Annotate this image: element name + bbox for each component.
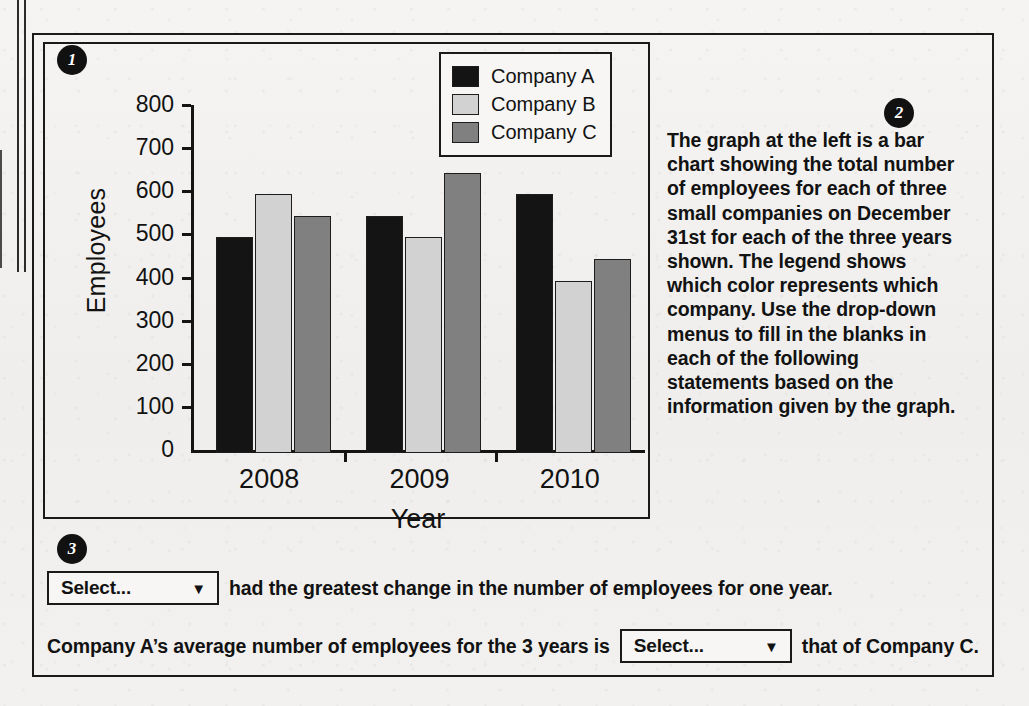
y-tick-label: 400 <box>114 266 174 289</box>
statement-two-text-before: Company A’s average number of employees … <box>47 635 610 658</box>
y-tick <box>182 147 191 150</box>
y-tick-label: 300 <box>114 309 174 332</box>
bar-2008-company-c <box>294 216 331 453</box>
chart-panel: Employees 8007006005004003002001000 2008… <box>43 42 650 519</box>
y-tick <box>182 190 191 193</box>
dropdown-value: Select... <box>61 577 131 599</box>
bar-2009-company-c <box>444 173 481 453</box>
y-tick <box>182 277 191 280</box>
x-category-label-2010: 2010 <box>495 464 645 495</box>
y-tick <box>182 320 191 323</box>
x-category-label-2008: 2008 <box>194 464 344 495</box>
x-axis-title: Year <box>191 504 645 535</box>
y-tick-label: 500 <box>114 222 174 245</box>
bar-2008-company-b <box>255 194 292 453</box>
y-tick <box>182 406 191 409</box>
statement-one-text: had the greatest change in the number of… <box>229 577 833 600</box>
callout-badge-1: 1 <box>57 45 87 75</box>
bar-2010-company-c <box>594 259 631 453</box>
chart-legend: Company A Company B Company C <box>439 52 612 157</box>
scan-artifact-rule <box>17 0 19 272</box>
callout-badge-3: 3 <box>57 534 87 564</box>
bar-2009-company-b <box>405 237 442 453</box>
legend-swatch-company-a <box>452 66 479 87</box>
x-tick <box>344 453 347 462</box>
dropdown-statement-two[interactable]: Select... ▼ <box>620 629 792 663</box>
bar-series-group <box>194 105 645 453</box>
chevron-down-icon: ▼ <box>764 639 779 654</box>
legend-entry-company-a: Company A <box>452 62 597 90</box>
legend-label-company-c: Company C <box>491 121 597 144</box>
y-tick-label: 600 <box>114 179 174 202</box>
legend-swatch-company-c <box>452 122 479 143</box>
y-tick <box>182 233 191 236</box>
statement-one: Select... ▼ had the greatest change in t… <box>47 571 833 605</box>
legend-label-company-a: Company A <box>491 65 594 88</box>
scan-artifact-rule <box>24 0 26 272</box>
legend-entry-company-c: Company C <box>452 118 597 146</box>
y-tick-label: 200 <box>114 352 174 375</box>
bar-2009-company-a <box>366 216 403 453</box>
bar-2010-company-b <box>555 281 592 454</box>
y-tick-label: 800 <box>114 93 174 116</box>
callout-badge-2: 2 <box>884 98 914 128</box>
scan-artifact-rule <box>0 150 2 268</box>
bar-2008-company-a <box>216 237 253 453</box>
legend-swatch-company-b <box>452 94 479 115</box>
x-tick <box>495 453 498 462</box>
y-tick-label: 0 <box>114 438 174 461</box>
chevron-down-icon: ▼ <box>191 581 206 596</box>
x-category-label-2009: 2009 <box>345 464 495 495</box>
y-axis-ticks: 8007006005004003002001000 <box>45 44 191 524</box>
bar-2010-company-a <box>516 194 553 453</box>
dropdown-statement-one[interactable]: Select... ▼ <box>47 571 219 605</box>
legend-label-company-b: Company B <box>491 93 596 116</box>
y-tick-label: 700 <box>114 136 174 159</box>
statement-two-text-after: that of Company C. <box>802 635 979 658</box>
dropdown-value: Select... <box>634 635 704 657</box>
bar-chart: Employees 8007006005004003002001000 2008… <box>45 44 648 517</box>
y-tick-label: 100 <box>114 395 174 418</box>
statement-two: Company A’s average number of employees … <box>47 629 979 663</box>
y-tick <box>182 363 191 366</box>
legend-entry-company-b: Company B <box>452 90 597 118</box>
instructions-text: The graph at the left is a bar chart sho… <box>667 128 957 418</box>
y-tick <box>182 104 191 107</box>
